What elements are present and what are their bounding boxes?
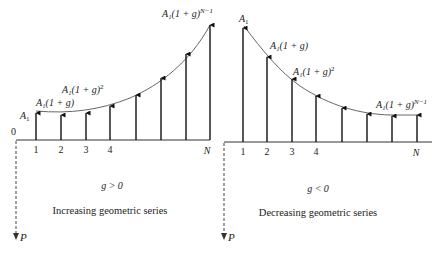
period-label: 3	[290, 146, 295, 157]
condition-label: g < 0	[307, 183, 329, 194]
period-labels: 1 2 3 4 N	[34, 144, 212, 156]
label-a1-1g-squared: A₁(1 + g)2	[61, 83, 104, 96]
period-label: 4	[314, 146, 319, 157]
origin-label: 0	[11, 126, 16, 137]
cash-flow-diagram: 0 P 1 2 3 4 N A1 A₁(1 + g) A₁(1 +	[0, 0, 444, 256]
period-label: 3	[84, 144, 89, 155]
label-a1-1g-squared: A₁(1 + g)2	[292, 65, 335, 78]
label-a1: A1	[238, 13, 249, 26]
present-worth-label: P	[227, 231, 235, 243]
cash-flow-arrows	[36, 25, 210, 140]
decreasing-series-panel: P 1 2 3 4 N A1 A₁(1 + g) A₁(1 + g)2 A₁(1…	[221, 13, 432, 243]
period-label: N	[412, 147, 421, 158]
label-a1: A1	[19, 110, 30, 123]
arrow-down-icon	[221, 233, 227, 240]
period-label: 2	[265, 146, 270, 157]
period-label: 1	[34, 144, 39, 155]
period-label: 2	[59, 144, 64, 155]
panel-caption: Decreasing geometric series	[259, 207, 377, 218]
label-a1-1g: A₁(1 + g)	[35, 97, 75, 109]
arrow-down-icon	[13, 233, 19, 240]
increasing-series-panel: 0 P 1 2 3 4 N A1 A₁(1 + g) A₁(1 +	[11, 7, 213, 243]
period-label: 4	[108, 144, 113, 155]
label-a1-1g-n-minus-1: A₁(1 + g)N−1	[161, 7, 213, 20]
period-label: N	[203, 145, 212, 156]
period-label: 1	[241, 146, 246, 157]
condition-label: g > 0	[101, 180, 123, 191]
label-a1-1g: A₁(1 + g)	[269, 40, 309, 52]
period-labels: 1 2 3 4 N	[241, 146, 421, 158]
present-worth-label: P	[19, 231, 27, 243]
panel-caption: Increasing geometric series	[53, 205, 168, 216]
label-a1-1g-n-minus-1: A₁(1 + g)N−1	[375, 98, 427, 111]
